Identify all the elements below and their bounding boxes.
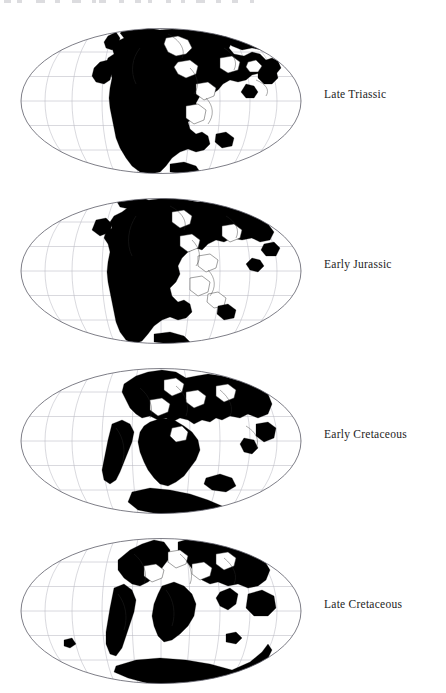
artifact-fragment	[17, 0, 22, 3]
artifact-fragment	[148, 0, 152, 3]
artifact-fragment	[72, 0, 81, 3]
artifact-fragment	[119, 0, 124, 3]
map-late-triassic	[20, 28, 302, 174]
artifact-fragment	[55, 0, 60, 3]
scan-artifact-top-edge	[0, 0, 446, 6]
map-label-late-cretaceous: Late Cretaceous	[324, 598, 402, 610]
artifact-fragment	[181, 0, 185, 3]
artifact-fragment	[250, 0, 254, 3]
map-early-jurassic	[20, 198, 302, 344]
map-early-cretaceous	[20, 368, 302, 514]
map-late-cretaceous	[20, 538, 302, 684]
artifact-fragment	[216, 0, 221, 3]
map-label-late-triassic: Late Triassic	[324, 88, 386, 100]
artifact-fragment	[135, 0, 141, 3]
artifact-fragment	[232, 0, 238, 3]
artifact-fragment	[92, 0, 96, 3]
map-label-early-cretaceous: Early Cretaceous	[324, 428, 407, 440]
artifact-fragment	[36, 0, 45, 3]
map-label-early-jurassic: Early Jurassic	[324, 258, 392, 270]
artifact-fragment	[166, 0, 171, 3]
artifact-fragment	[99, 0, 106, 3]
artifact-fragment	[196, 0, 205, 3]
artifact-fragment	[4, 0, 11, 3]
